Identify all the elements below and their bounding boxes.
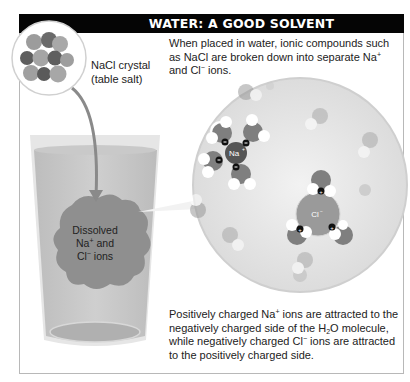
cl-ion-label: Cl	[311, 210, 319, 219]
svg-text:−: −	[320, 208, 323, 214]
dissolved-ions-label: Dissolved Na+ and Cl− ions	[64, 224, 126, 263]
crystal-label: NaCl crystal (table salt)	[91, 59, 150, 86]
na-ion-label: Na	[229, 149, 240, 158]
svg-text:+: +	[242, 146, 245, 152]
svg-text:+: +	[330, 225, 334, 231]
crystal-magnifier	[12, 21, 86, 95]
magnified-view: Na + Cl − + + +	[190, 78, 407, 292]
svg-text:+: +	[298, 227, 302, 233]
svg-text:+: +	[319, 189, 323, 195]
explanation-text: Positively charged Na+ ions are attracte…	[169, 308, 398, 362]
intro-text: When placed in water, ionic compounds su…	[169, 37, 389, 78]
